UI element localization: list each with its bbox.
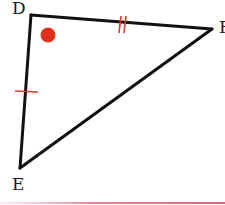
vertex-label-f: F [219, 19, 225, 36]
single-tick-mark-de [15, 91, 38, 92]
double-tick-mark-df [119, 16, 126, 33]
vertex-label-d: D [12, 0, 26, 17]
angle-dot-marker [41, 28, 56, 43]
triangle-diagram [0, 0, 225, 205]
vertex-label-e: E [12, 176, 24, 193]
side-fe [20, 29, 212, 168]
bottom-rule [0, 202, 225, 204]
